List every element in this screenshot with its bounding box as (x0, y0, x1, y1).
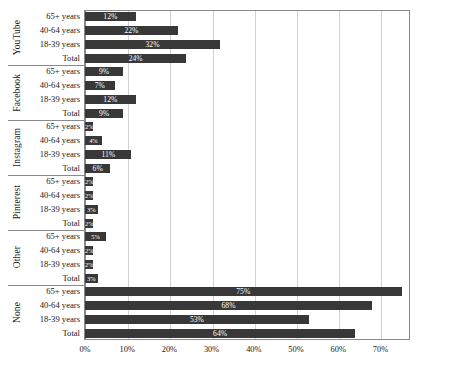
axis-tick-label: 65+ years (46, 10, 80, 23)
axis-tick-label: 18-39 years (40, 203, 80, 216)
tick-label-column: 65+ years40-64 years18-39 yearsTotal (26, 285, 80, 340)
bar-value-label: 4% (89, 136, 98, 145)
bar-value-label: 12% (103, 12, 117, 21)
group-label-text: None (12, 302, 22, 323)
bar-row: 6% (85, 164, 410, 173)
group-label-instagram: Instagram (8, 120, 26, 175)
axis-tick-label: Total (62, 52, 80, 65)
bar-value-label: 3% (87, 205, 96, 214)
axis-tick-label: 18-39 years (40, 38, 80, 51)
tick-label-column: 65+ years40-64 years18-39 yearsTotal (26, 10, 80, 65)
axis-tick-label: 18-39 years (40, 313, 80, 326)
axis-tick-label: 40-64 years (40, 24, 80, 37)
x-axis-tick: 70% (373, 345, 388, 354)
bar-value-label: 68% (222, 301, 236, 310)
axis-tick-label: 40-64 years (40, 189, 80, 202)
axis-tick-label: 65+ years (46, 175, 80, 188)
group-separator (8, 285, 85, 286)
category-group-facebook: Facebook65+ years40-64 years18-39 yearsT… (8, 65, 85, 120)
bar-value-label: 32% (146, 40, 160, 49)
group-separator (8, 65, 85, 66)
axis-tick-label: 65+ years (46, 65, 80, 78)
bar-row: 5% (85, 232, 410, 241)
axis-tick-label: Total (62, 217, 80, 230)
bar-value-label: 53% (190, 315, 204, 324)
bar-row: 4% (85, 136, 410, 145)
bar-value-label: 24% (129, 54, 143, 63)
group-separator (8, 230, 85, 231)
bar-value-label: 2% (85, 260, 94, 269)
bar-row: 3% (85, 274, 410, 283)
bar-value-label: 6% (93, 164, 103, 173)
bar-row: 12% (85, 12, 410, 21)
x-axis-tick: 30% (204, 345, 219, 354)
tick-label-column: 65+ years40-64 years18-39 yearsTotal (26, 65, 80, 120)
bar-row: 7% (85, 81, 410, 90)
x-axis-tick: 40% (246, 345, 261, 354)
bar-row: 75% (85, 287, 410, 296)
group-label-none: None (8, 285, 26, 340)
axis-tick-label: 18-39 years (40, 148, 80, 161)
x-axis-tick: 20% (162, 345, 177, 354)
group-label-text: Instagram (12, 128, 22, 167)
category-axis: YouTube65+ years40-64 years18-39 yearsTo… (8, 10, 85, 340)
bar-row: 2% (85, 122, 410, 131)
x-axis-tick: 50% (288, 345, 303, 354)
axis-tick-label: 40-64 years (40, 244, 80, 257)
category-group-instagram: Instagram65+ years40-64 years18-39 years… (8, 120, 85, 175)
bar-value-label: 11% (101, 150, 115, 159)
group-label-pinterest: Pinterest (8, 175, 26, 230)
bar-row: 9% (85, 109, 410, 118)
tick-label-column: 65+ years40-64 years18-39 yearsTotal (26, 120, 80, 175)
bar-value-label: 9% (99, 109, 109, 118)
group-label-text: Facebook (12, 74, 22, 112)
bar-value-label: 2% (85, 219, 94, 228)
axis-tick-label: 18-39 years (40, 93, 80, 106)
bar-value-label: 2% (85, 191, 94, 200)
category-group-none: None65+ years40-64 years18-39 yearsTotal (8, 285, 85, 340)
bar-row: 64% (85, 329, 410, 338)
bar-value-label: 9% (99, 67, 109, 76)
axis-tick-label: 40-64 years (40, 134, 80, 147)
bar-row: 3% (85, 205, 410, 214)
bar-value-label: 3% (87, 274, 96, 283)
tick-label-column: 65+ years40-64 years18-39 yearsTotal (26, 230, 80, 285)
bars-layer: 12%22%32%24%9%7%12%9%2%4%11%6%2%2%3%2%5%… (85, 10, 410, 340)
x-axis-tick: 60% (331, 345, 346, 354)
axis-tick-label: Total (62, 107, 80, 120)
group-label-other: Other (8, 230, 26, 285)
bar-row: 2% (85, 177, 410, 186)
bar-row: 22% (85, 26, 410, 35)
bar-row: 2% (85, 260, 410, 269)
bar-chart: YouTube65+ years40-64 years18-39 yearsTo… (0, 0, 450, 366)
axis-tick-label: 65+ years (46, 230, 80, 243)
axis-tick-label: 18-39 years (40, 258, 80, 271)
group-label-text: YouTube (12, 20, 22, 55)
tick-label-column: 65+ years40-64 years18-39 yearsTotal (26, 175, 80, 230)
bar-row: 68% (85, 301, 410, 310)
bar-value-label: 5% (91, 232, 100, 241)
axis-tick-label: 65+ years (46, 285, 80, 298)
axis-tick-label: Total (62, 272, 80, 285)
bar-row: 9% (85, 67, 410, 76)
axis-tick-label: Total (62, 162, 80, 175)
group-label-text: Other (12, 246, 22, 268)
bar-row: 11% (85, 150, 410, 159)
bar-row: 2% (85, 191, 410, 200)
category-group-other: Other65+ years40-64 years18-39 yearsTota… (8, 230, 85, 285)
bar-row: 2% (85, 219, 410, 228)
x-axis-tick: 10% (120, 345, 135, 354)
category-group-youtube: YouTube65+ years40-64 years18-39 yearsTo… (8, 10, 85, 65)
axis-tick-label: 65+ years (46, 120, 80, 133)
bar-row: 24% (85, 54, 410, 63)
group-label-facebook: Facebook (8, 65, 26, 120)
x-axis: 0%10%20%30%40%50%60%70% (85, 341, 410, 359)
bar-value-label: 7% (95, 81, 105, 90)
group-separator (8, 120, 85, 121)
bar-row: 53% (85, 315, 410, 324)
group-label-youtube: YouTube (8, 10, 26, 65)
bar-value-label: 2% (85, 177, 94, 186)
bar-value-label: 22% (124, 26, 138, 35)
category-group-pinterest: Pinterest65+ years40-64 years18-39 years… (8, 175, 85, 230)
bar-value-label: 64% (213, 329, 227, 338)
